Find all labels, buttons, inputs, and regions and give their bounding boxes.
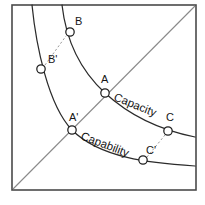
point-label-c: C: [166, 111, 174, 123]
diagram-canvas: AA'BB'CC' Capacity Capability: [0, 0, 205, 205]
point-label-a-prime: A': [69, 111, 78, 123]
point-label-b: B: [75, 15, 82, 27]
point-marker-c: [164, 127, 172, 135]
point-marker-a: [101, 89, 109, 97]
point-label-a: A: [101, 73, 109, 85]
point-marker-b: [66, 28, 74, 36]
point-label-b-prime: B': [48, 53, 57, 65]
capacity-capability-diagram: AA'BB'CC' Capacity Capability: [0, 0, 205, 205]
point-marker-a-prime: [68, 126, 76, 134]
point-marker-b-prime: [37, 65, 45, 73]
capability-curve-label: Capability: [79, 130, 131, 159]
point-label-c-prime: C': [146, 144, 156, 156]
point-marker-c-prime: [139, 156, 147, 164]
